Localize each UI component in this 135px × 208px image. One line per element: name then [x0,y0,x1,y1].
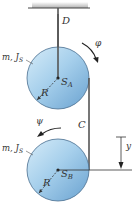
ceiling [28,2,90,8]
angle-phi-label: φ [95,38,102,48]
displacement-y-arrow [116,137,126,169]
displacement-y-label: y [125,141,132,151]
angle-psi-arrow [37,128,61,137]
disk-a [26,14,89,109]
angle-psi-label: ψ [36,116,44,126]
rope-c-label: C [78,119,86,130]
pulley-diagram: D R SA m, JS φ C ψ R SB [0,0,135,208]
disk-b-radius-label: R [42,177,51,188]
rope-d-label: D [61,15,70,26]
disk-a-properties-label: m, JS [2,52,23,63]
disk-b-properties-label: m, JS [2,143,23,154]
disk-a-radius-label: R [40,87,49,98]
